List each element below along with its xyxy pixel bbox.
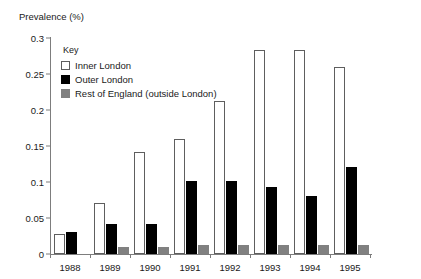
bar-outer [226,181,237,254]
legend-label: Rest of England (outside London) [75,88,217,99]
legend: Key Inner LondonOuter LondonRest of Engl… [61,45,217,100]
x-axis-line [50,254,372,255]
x-tick-mark [330,254,331,258]
x-tick-label: 1991 [179,262,200,273]
x-tick-mark [50,254,51,258]
bar-outer [66,232,77,254]
bar-rest [198,245,209,254]
legend-item-inner: Inner London [61,58,217,72]
bar-inner [54,234,65,254]
x-tick-label: 1988 [59,262,80,273]
bar-group [330,38,370,254]
bar-inner [334,67,345,254]
bar-rest [118,247,129,254]
x-tick-mark [290,254,291,258]
bar-outer [106,224,117,254]
bar-rest [358,245,369,254]
bar-rest [238,245,249,254]
legend-item-rest: Rest of England (outside London) [61,86,217,100]
x-tick-mark [210,254,211,258]
x-tick-label: 1993 [259,262,280,273]
x-tick-label: 1989 [99,262,120,273]
x-tick-mark [130,254,131,258]
legend-swatch-inner [61,61,70,70]
x-tick-mark [250,254,251,258]
bar-inner [134,152,145,254]
bar-rest [318,245,329,254]
bar-group [290,38,330,254]
x-tick-mark [170,254,171,258]
bar-inner [214,101,225,254]
bar-group [250,38,290,254]
legend-item-outer: Outer London [61,72,217,86]
legend-swatch-outer [61,75,70,84]
bar-inner [294,50,305,254]
y-axis-title: Prevalence (%) [19,11,84,22]
x-tick-mark [90,254,91,258]
legend-label: Inner London [75,60,131,71]
x-tick-mark [370,254,371,258]
bar-outer [306,196,317,254]
bar-outer [346,167,357,254]
legend-label: Outer London [75,74,133,85]
legend-items: Inner LondonOuter LondonRest of England … [61,58,217,100]
bar-chart: Prevalence (%) 00.050.10.150.20.250.3 19… [0,0,421,279]
x-tick-label: 1992 [219,262,240,273]
bar-outer [146,224,157,254]
x-tick-label: 1995 [339,262,360,273]
bar-outer [266,187,277,254]
bar-rest [278,245,289,254]
x-tick-label: 1990 [139,262,160,273]
legend-title: Key [61,45,217,55]
bar-outer [186,181,197,254]
x-tick-label: 1994 [299,262,320,273]
bar-inner [174,139,185,254]
bar-inner [94,203,105,254]
legend-swatch-rest [61,89,70,98]
bar-rest [158,247,169,254]
bar-inner [254,50,265,254]
